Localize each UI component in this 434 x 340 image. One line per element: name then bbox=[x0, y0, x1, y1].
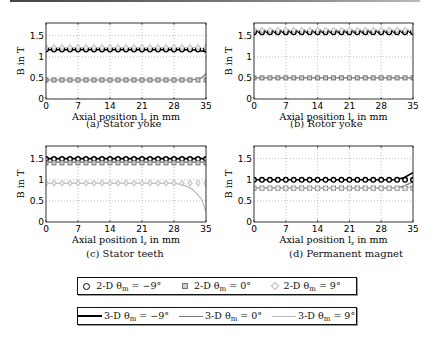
svg-text:7: 7 bbox=[75, 101, 81, 111]
legend-entry: 2-D θm = 0° bbox=[182, 280, 251, 293]
svg-text:21: 21 bbox=[136, 101, 147, 111]
svg-text:1.5: 1.5 bbox=[30, 154, 44, 164]
svg-text:1: 1 bbox=[38, 52, 44, 62]
svg-text:1: 1 bbox=[246, 175, 252, 185]
legend-label: 2-D θm = −9° bbox=[96, 280, 161, 293]
svg-text:1: 1 bbox=[246, 52, 252, 62]
circle-marker-icon bbox=[83, 283, 90, 290]
svg-text:21: 21 bbox=[344, 101, 355, 111]
svg-text:0: 0 bbox=[38, 94, 44, 104]
svg-text:28: 28 bbox=[375, 224, 387, 234]
svg-text:28: 28 bbox=[168, 224, 180, 234]
svg-text:0: 0 bbox=[246, 217, 252, 227]
svg-text:0: 0 bbox=[38, 217, 44, 227]
svg-text:0: 0 bbox=[246, 94, 252, 104]
caption-d: (d) Permanent magnet bbox=[289, 248, 403, 259]
svg-text:7: 7 bbox=[283, 224, 289, 234]
legend-entry: 3-D θm = 0° bbox=[179, 310, 262, 323]
svg-text:35: 35 bbox=[407, 101, 418, 111]
line-marker-icon bbox=[179, 316, 203, 317]
svg-text:28: 28 bbox=[375, 101, 387, 111]
svg-text:7: 7 bbox=[75, 224, 81, 234]
svg-text:35: 35 bbox=[407, 224, 418, 234]
svg-text:1.5: 1.5 bbox=[238, 31, 252, 41]
svg-text:7: 7 bbox=[283, 101, 289, 111]
svg-text:35: 35 bbox=[200, 101, 211, 111]
legend-label: 3-D θm = 9° bbox=[298, 310, 355, 323]
legend-entry: 2-D θm = 9° bbox=[272, 280, 341, 293]
svg-text:21: 21 bbox=[344, 224, 355, 234]
svg-text:0.5: 0.5 bbox=[238, 73, 252, 83]
svg-text:B in T: B in T bbox=[15, 169, 26, 198]
svg-text:0.5: 0.5 bbox=[30, 196, 44, 206]
svg-text:B in T: B in T bbox=[223, 46, 234, 75]
svg-text:0: 0 bbox=[251, 224, 257, 234]
svg-text:B in T: B in T bbox=[223, 169, 234, 198]
square-marker-icon bbox=[182, 283, 188, 289]
svg-text:0.5: 0.5 bbox=[238, 196, 252, 206]
svg-text:14: 14 bbox=[312, 101, 324, 111]
svg-text:1.5: 1.5 bbox=[30, 31, 44, 41]
svg-text:0: 0 bbox=[43, 101, 49, 111]
legend-label: 3-D θm = −9° bbox=[104, 310, 169, 323]
svg-text:14: 14 bbox=[104, 224, 116, 234]
svg-text:14: 14 bbox=[312, 224, 324, 234]
legend-entry: 2-D θm = −9° bbox=[83, 280, 161, 293]
svg-text:35: 35 bbox=[200, 224, 211, 234]
svg-text:1: 1 bbox=[38, 175, 44, 185]
svg-text:B in T: B in T bbox=[15, 46, 26, 75]
line-marker-icon bbox=[78, 315, 102, 317]
legend-label: 2-D θm = 0° bbox=[194, 280, 251, 293]
plot-c: 071421283500.511.5Axial position lz in m… bbox=[15, 146, 212, 246]
svg-text:0.5: 0.5 bbox=[30, 73, 44, 83]
caption-c: (c) Stator teeth bbox=[86, 248, 164, 259]
series-line bbox=[46, 183, 206, 211]
svg-text:21: 21 bbox=[136, 224, 147, 234]
svg-text:Axial position lz in mm: Axial position lz in mm bbox=[279, 234, 388, 246]
plot-d: 071421283500.511.5Axial position lz in m… bbox=[223, 146, 419, 246]
svg-text:0: 0 bbox=[43, 224, 49, 234]
legend-entry: 3-D θm = 9° bbox=[272, 310, 355, 323]
legend-label: 3-D θm = 0° bbox=[205, 310, 262, 323]
caption-b: (b) Rotor yoke bbox=[290, 118, 363, 129]
legend-label: 2-D θm = 9° bbox=[284, 280, 341, 293]
line-marker-icon bbox=[272, 316, 296, 317]
svg-text:Axial position lz in mm: Axial position lz in mm bbox=[71, 234, 180, 246]
svg-text:0: 0 bbox=[251, 101, 257, 111]
svg-text:1.5: 1.5 bbox=[238, 154, 252, 164]
svg-text:14: 14 bbox=[104, 101, 116, 111]
plot-b: 071421283500.511.5Axial position lz in m… bbox=[223, 23, 419, 123]
legend-3d: 3-D θm = −9°3-D θm = 0°3-D θm = 9° bbox=[77, 307, 357, 325]
diamond-marker-icon bbox=[270, 282, 278, 290]
plot-a: 071421283500.511.5Axial position lz in m… bbox=[15, 23, 212, 123]
legend-2d: 2-D θm = −9°2-D θm = 0°2-D θm = 9° bbox=[77, 277, 357, 295]
legend-entry: 3-D θm = −9° bbox=[78, 310, 169, 323]
caption-a: (a) Stator yoke bbox=[86, 118, 161, 129]
svg-text:28: 28 bbox=[168, 101, 180, 111]
